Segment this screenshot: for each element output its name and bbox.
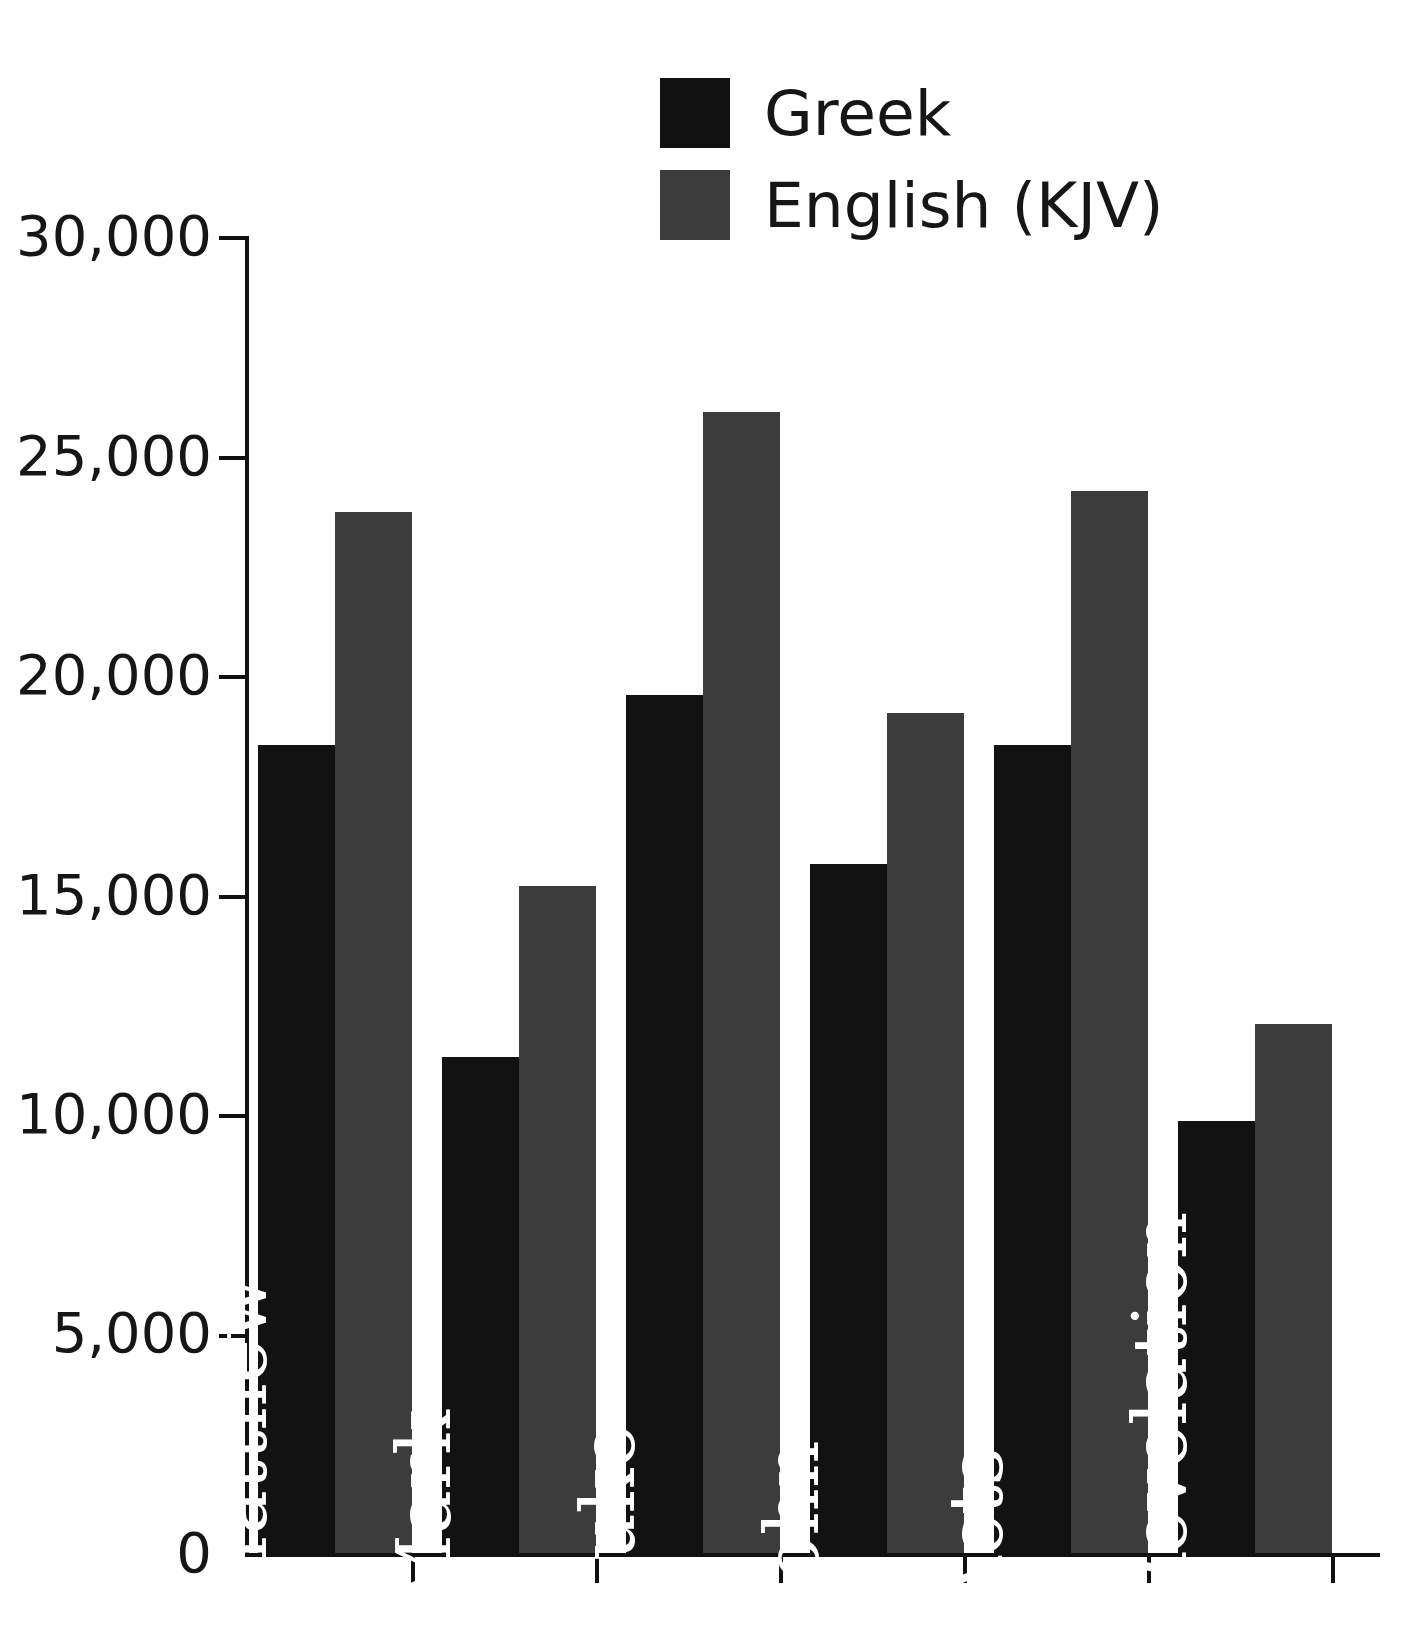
y-tick-mark-15000 — [219, 895, 245, 899]
bar-english-mark — [519, 886, 596, 1553]
y-tick-label-25000: 25,000 — [16, 428, 212, 484]
x-tick-mark-5 — [1147, 1557, 1151, 1583]
bar-english-acts — [1071, 491, 1148, 1553]
y-tick-mark-5000 — [219, 1334, 245, 1338]
legend-label-greek: Greek — [764, 82, 951, 145]
y-axis-line — [245, 236, 249, 1553]
y-tick-label-30000: 30,000 — [16, 208, 212, 264]
legend-label-english: English (KJV) — [764, 174, 1164, 237]
bar-chart: Greek English (KJV) 0 5,000 10,000 15,00… — [0, 0, 1408, 1651]
x-tick-mark-2 — [595, 1557, 599, 1583]
y-tick-label-5000: 5,000 — [52, 1305, 212, 1361]
x-tick-mark-4 — [963, 1557, 967, 1583]
y-tick-label-0: 0 — [176, 1525, 212, 1581]
bar-greek-matthew — [258, 745, 335, 1553]
bar-greek-mark — [442, 1057, 519, 1553]
y-tick-label-20000: 20,000 — [16, 647, 212, 703]
bar-greek-revelation — [1178, 1121, 1255, 1553]
legend-swatch-english — [660, 170, 730, 240]
plot-area: Matthew Mark Luke John Acts Revelation — [245, 236, 1380, 1553]
y-tick-mark-20000 — [219, 675, 245, 679]
bar-greek-acts — [994, 745, 1071, 1553]
bar-english-matthew — [335, 512, 412, 1553]
x-tick-mark-6 — [1331, 1557, 1335, 1583]
bar-english-john — [887, 713, 964, 1553]
legend-item-greek: Greek — [660, 78, 951, 148]
legend-item-english: English (KJV) — [660, 170, 1164, 240]
x-axis-line — [245, 1553, 1380, 1557]
bar-english-revelation — [1255, 1024, 1332, 1553]
y-tick-mark-30000 — [219, 236, 245, 240]
legend-swatch-greek — [660, 78, 730, 148]
x-tick-mark-3 — [779, 1557, 783, 1583]
bar-greek-luke — [626, 695, 703, 1553]
x-tick-mark-1 — [411, 1557, 415, 1583]
y-tick-label-10000: 10,000 — [16, 1086, 212, 1142]
y-tick-mark-25000 — [219, 456, 245, 460]
bar-english-luke — [703, 412, 780, 1553]
y-axis-tick-labels: 0 5,000 10,000 15,000 20,000 25,000 30,0… — [0, 0, 240, 1651]
y-tick-mark-10000 — [219, 1114, 245, 1118]
y-tick-label-15000: 15,000 — [16, 867, 212, 923]
bar-greek-john — [810, 864, 887, 1553]
